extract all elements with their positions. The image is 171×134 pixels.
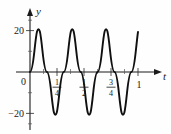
y-axis-label: y [35, 5, 41, 17]
y-tick-label-20: 20 [14, 25, 24, 36]
frac-denominator-threequarter: 4 [109, 89, 113, 98]
frac-numerator-threequarter: 3 [109, 78, 113, 87]
frac-denominator-quarter: 4 [55, 89, 59, 98]
y-tick-label-minus-20: −20 [8, 108, 24, 119]
x-axis-arrowhead [154, 69, 162, 75]
origin-label: 0 [21, 76, 26, 87]
plot-canvas: y t 20 −20 0 1 4 1 2 3 4 1 [0, 0, 171, 134]
x-tick-label-one: 1 [137, 79, 142, 90]
frac-denominator-half: 2 [82, 89, 86, 98]
sine-wave-figure: y t 20 −20 0 1 4 1 2 3 4 1 [0, 0, 171, 134]
x-tick-label-threequarter: 3 4 [107, 78, 116, 98]
t-axis-label: t [163, 70, 167, 82]
x-tick-label-half: 1 2 [80, 78, 89, 98]
frac-numerator-quarter: 1 [55, 78, 59, 87]
y-axis-arrowhead [27, 8, 33, 16]
frac-numerator-half: 1 [82, 78, 86, 87]
